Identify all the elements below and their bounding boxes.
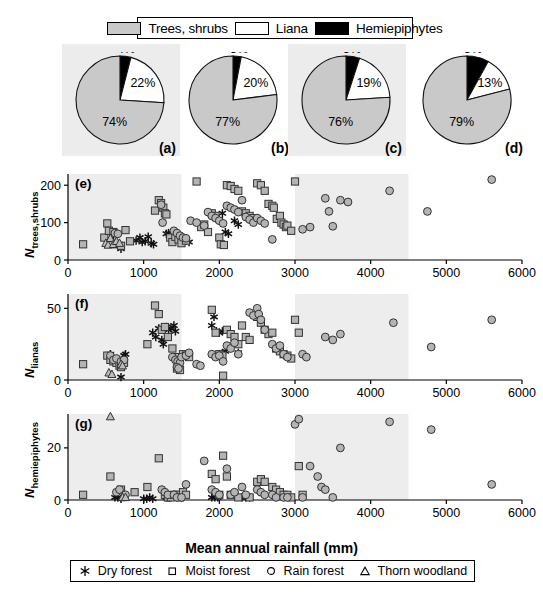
square-data-point <box>238 322 245 329</box>
square-data-point <box>295 463 302 470</box>
pie-label-a-1: 22% <box>130 76 155 90</box>
square-data-point <box>220 372 227 379</box>
circle-data-point <box>272 494 280 502</box>
square-data-point <box>246 336 253 343</box>
x-tick-label: 6000 <box>508 506 536 520</box>
square-data-point <box>151 207 158 214</box>
circle-data-point <box>306 462 314 470</box>
square-data-point <box>155 455 162 462</box>
square-data-point <box>126 238 133 245</box>
circle-data-point <box>234 350 242 358</box>
y-tick-label: 0 <box>54 254 61 268</box>
square-data-point <box>220 241 227 248</box>
square-data-point <box>131 489 138 496</box>
panel-letter-e: (e) <box>75 176 92 191</box>
circle-data-point <box>185 349 193 357</box>
pie-panel-letter-d: (d) <box>505 140 523 156</box>
x-tick-label: 5000 <box>432 386 460 400</box>
shaded-band-1 <box>295 414 409 500</box>
y-axis-subscript: hemiepiphytes <box>29 422 40 489</box>
circle-data-point <box>234 208 242 216</box>
scatter-panel-g: 0100020003000400050006000020(g)Nhemiepip… <box>0 408 543 528</box>
panel-letter-g: (g) <box>75 416 92 431</box>
composition-legend: Trees, shrubs Liana Hemiepiphytes <box>137 17 413 39</box>
square-data-point <box>161 323 168 330</box>
square-data-point <box>107 473 114 480</box>
circle-data-point <box>175 365 183 373</box>
pie-label-b-1: 20% <box>243 76 268 90</box>
pie-label-b-2: 3% <box>230 52 248 56</box>
y-axis-symbol: N <box>22 369 37 378</box>
circle-data-point <box>261 220 269 228</box>
x-tick-label: 0 <box>65 266 72 280</box>
y-tick-label: 20 <box>47 441 61 455</box>
circle-data-point <box>200 457 208 465</box>
circle-data-point <box>306 223 314 231</box>
circle-data-point <box>390 319 398 327</box>
y-axis-symbol: N <box>22 489 37 498</box>
liana-swatch <box>235 22 269 35</box>
scatter-svg-f: 0100020003000400050006000050(f) <box>0 288 543 408</box>
y-tick-label: 50 <box>47 302 61 316</box>
circle-data-point <box>231 488 239 496</box>
square-data-point <box>169 345 176 352</box>
legend-item-rain-forest: Rain forest <box>264 564 344 578</box>
pie-label-a-2: 4% <box>117 52 135 56</box>
pie-label-d-2: 8% <box>464 52 482 56</box>
x-tick-label: 5000 <box>432 506 460 520</box>
asterisk-marker-icon <box>78 564 92 578</box>
x-tick-label: 6000 <box>508 386 536 400</box>
x-tick-label: 0 <box>65 386 72 400</box>
square-data-point <box>261 187 268 194</box>
legend-label-moist-forest: Moist forest <box>185 564 250 578</box>
x-tick-label: 3000 <box>281 506 309 520</box>
pie-label-c-2: 5% <box>343 52 361 56</box>
pie-chart-b: 3%20%77%(b) <box>175 44 293 156</box>
legend-item-thorn-woodland: Thorn woodland <box>358 564 468 578</box>
scatter-svg-e: 01000200030004000500060000100200(e) <box>0 168 543 288</box>
circle-data-point <box>219 358 227 366</box>
circle-data-point <box>268 236 276 244</box>
circle-data-point <box>182 234 190 242</box>
square-data-point <box>164 333 171 340</box>
square-data-point <box>291 316 298 323</box>
x-tick-label: 1000 <box>130 506 158 520</box>
square-data-point <box>122 227 129 234</box>
circle-data-point <box>219 220 227 228</box>
square-data-point <box>235 187 242 194</box>
x-tick-label: 3000 <box>281 266 309 280</box>
forest-type-legend: Dry forest Moist forest Rain forest Thor… <box>70 560 475 582</box>
square-data-point <box>193 178 200 185</box>
circle-data-point <box>344 198 352 206</box>
circle-data-point <box>276 342 284 350</box>
circle-data-point <box>157 201 165 209</box>
x-tick-label: 3000 <box>281 386 309 400</box>
square-data-point <box>223 473 230 480</box>
circle-data-point <box>424 208 432 216</box>
circle-data-point <box>178 494 186 502</box>
y-tick-label: 100 <box>40 216 61 230</box>
x-axis-title: Mean annual rainfall (mm) <box>0 540 543 556</box>
liana-legend-label: Liana <box>276 21 308 36</box>
pie-label-c-1: 19% <box>356 76 381 90</box>
y-axis-symbol: N <box>22 249 37 258</box>
x-tick-label: 2000 <box>205 266 233 280</box>
circle-data-point <box>159 219 167 227</box>
y-axis-subscript: trees,shrubs <box>29 192 40 249</box>
square-data-point <box>163 211 170 218</box>
circle-data-point <box>386 418 394 426</box>
y-axis-label-e: Ntrees,shrubs <box>22 192 40 258</box>
square-data-point <box>212 329 219 336</box>
square-data-point <box>269 329 276 336</box>
circle-data-point <box>231 339 239 347</box>
square-data-point <box>212 476 219 483</box>
triangle-marker-icon <box>358 564 372 578</box>
square-data-point <box>155 311 162 318</box>
x-tick-label: 2000 <box>205 506 233 520</box>
y-axis-subscript: lianas <box>29 342 40 369</box>
circle-data-point <box>488 481 496 489</box>
circle-data-point <box>193 219 201 227</box>
circle-data-point <box>321 486 329 494</box>
square-data-point <box>220 452 227 459</box>
legend-label-dry-forest: Dry forest <box>98 564 152 578</box>
